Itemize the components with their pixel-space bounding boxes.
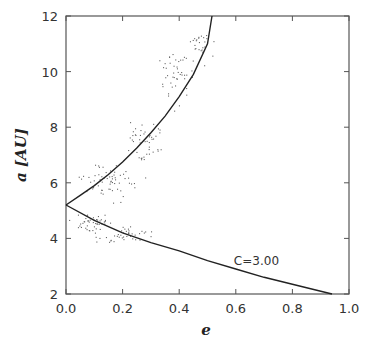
particle-dot bbox=[99, 238, 100, 239]
particle-dot bbox=[123, 237, 124, 238]
particle-dot bbox=[105, 220, 106, 221]
particle-dot bbox=[175, 85, 176, 86]
curves bbox=[66, 16, 332, 294]
particle-dot bbox=[96, 237, 97, 238]
particle-dot bbox=[98, 165, 99, 166]
particle-dot bbox=[182, 75, 183, 76]
particle-dot bbox=[83, 176, 84, 177]
particle-dot bbox=[124, 229, 125, 230]
particle-dot bbox=[178, 72, 179, 73]
particle-dot bbox=[126, 231, 127, 232]
particle-dot bbox=[177, 79, 178, 80]
particle-dot bbox=[149, 142, 150, 143]
particle-dot bbox=[145, 231, 146, 232]
particle-dot bbox=[110, 189, 111, 190]
particle-dot bbox=[190, 41, 191, 42]
particle-dot bbox=[92, 230, 93, 231]
particle-dot bbox=[106, 172, 107, 173]
y-tick-label: 4 bbox=[50, 231, 58, 246]
x-tick-label: 0.0 bbox=[56, 301, 77, 316]
particle-dot bbox=[193, 40, 194, 41]
particle-dot bbox=[193, 61, 194, 62]
particle-dot bbox=[120, 202, 121, 203]
particle-dot bbox=[163, 67, 164, 68]
particle-dot bbox=[114, 235, 115, 236]
particle-dot bbox=[97, 224, 98, 225]
particle-dot bbox=[157, 149, 158, 150]
particle-dot bbox=[133, 131, 134, 132]
particle-dot bbox=[114, 183, 115, 184]
particle-dot bbox=[140, 135, 141, 136]
particle-dot bbox=[186, 58, 187, 59]
curve-line bbox=[66, 205, 332, 294]
particle-dot bbox=[79, 226, 80, 227]
particle-dot bbox=[212, 56, 213, 57]
particle-dot bbox=[146, 154, 147, 155]
particle-dot bbox=[131, 184, 132, 185]
particle-dot bbox=[106, 237, 107, 238]
particle-dot bbox=[122, 237, 123, 238]
particle-dot bbox=[95, 233, 96, 234]
particle-dot bbox=[120, 190, 121, 191]
particle-dot bbox=[110, 184, 111, 185]
particle-dot bbox=[94, 180, 95, 181]
particle-dot bbox=[140, 240, 141, 241]
particle-dot bbox=[114, 175, 115, 176]
particle-dot bbox=[184, 57, 185, 58]
particle-dot bbox=[130, 226, 131, 227]
particle-dot bbox=[141, 231, 142, 232]
particle-dot bbox=[201, 50, 202, 51]
particle-dot bbox=[175, 59, 176, 60]
y-tick-label: 8 bbox=[50, 120, 58, 135]
particle-dot bbox=[90, 182, 91, 183]
curve-line bbox=[66, 16, 212, 205]
particle-dot bbox=[129, 183, 130, 184]
annotation-c-value: C=3.00 bbox=[234, 254, 279, 268]
particle-dot bbox=[149, 154, 150, 155]
particle-dot bbox=[160, 130, 161, 131]
particle-dot bbox=[199, 42, 200, 43]
particle-dot bbox=[82, 223, 83, 224]
particle-dot bbox=[88, 220, 89, 221]
particle-dot bbox=[99, 167, 100, 168]
particle-dot bbox=[186, 75, 187, 76]
particle-dot bbox=[119, 237, 120, 238]
particle-dot bbox=[143, 157, 144, 158]
particle-dot bbox=[112, 182, 113, 183]
particle-dot bbox=[165, 77, 166, 78]
particle-dot bbox=[128, 229, 129, 230]
particle-dot bbox=[151, 137, 152, 138]
particle-dot bbox=[128, 230, 129, 231]
particle-dot bbox=[85, 218, 86, 219]
particle-dot bbox=[93, 217, 94, 218]
particle-dot bbox=[132, 238, 133, 239]
particle-dot bbox=[151, 231, 152, 232]
particle-dot bbox=[96, 242, 97, 243]
particle-dot bbox=[178, 61, 179, 62]
particle-dot bbox=[174, 111, 175, 112]
particle-dot bbox=[123, 239, 124, 240]
particle-dot bbox=[135, 128, 136, 129]
particle-dot bbox=[168, 96, 169, 97]
particle-dot bbox=[147, 141, 148, 142]
particle-dot bbox=[139, 157, 140, 158]
particle-dot bbox=[98, 174, 99, 175]
particle-dot bbox=[162, 84, 163, 85]
particle-dot bbox=[92, 188, 93, 189]
particle-dot bbox=[101, 193, 102, 194]
particle-dot bbox=[128, 150, 129, 151]
particle-dot bbox=[112, 178, 113, 179]
particle-dot bbox=[101, 219, 102, 220]
particle-dot bbox=[100, 229, 101, 230]
particle-dot bbox=[180, 74, 181, 75]
particle-dot bbox=[199, 49, 200, 50]
particle-dot bbox=[90, 220, 91, 221]
particle-dot bbox=[114, 241, 115, 242]
particle-dot bbox=[149, 136, 150, 137]
particle-dot bbox=[201, 36, 202, 37]
particle-dot bbox=[177, 68, 178, 69]
particle-dot bbox=[114, 172, 115, 173]
particle-dot bbox=[120, 235, 121, 236]
particle-dot bbox=[107, 178, 108, 179]
particle-dot bbox=[158, 128, 159, 129]
